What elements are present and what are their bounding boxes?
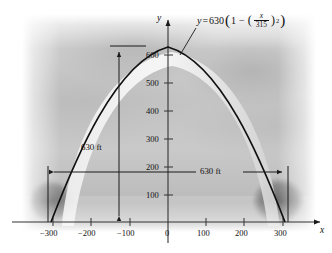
y-axis-label: y: [157, 14, 161, 24]
equation-fraction: x 315: [254, 12, 269, 29]
x-tick-label--200: −200: [78, 229, 96, 238]
y-tick-label-100: 100: [146, 191, 159, 200]
equation-equals: =: [202, 15, 208, 26]
y-tick-label-300: 300: [146, 135, 159, 144]
equation-label: y = 630 ( 1 − ( x 315 ) 2 ): [197, 12, 285, 29]
y-tick-label-200: 200: [146, 163, 159, 172]
equation-leader-line: [180, 28, 196, 55]
figure-arch-parabola: y = 630 ( 1 − ( x 315 ) 2 ) y x −300 −20…: [0, 0, 332, 253]
equation-open-paren: (: [225, 14, 230, 28]
plot-layer: [0, 0, 332, 253]
x-tick-label-300: 300: [274, 229, 287, 238]
x-tick-label-0: 0: [165, 229, 169, 238]
x-axis-label: x: [320, 226, 324, 236]
width-annotation-label: 630 ft: [200, 167, 221, 176]
equation-close-paren: ): [280, 14, 285, 28]
x-tick-label-100: 100: [197, 229, 210, 238]
equation-minus: −: [239, 15, 245, 26]
fraction-denominator: 315: [254, 20, 269, 29]
equation-inner-open-paren: (: [248, 15, 252, 26]
equation-coefficient: 630: [209, 15, 224, 26]
y-tick-label-500: 500: [146, 79, 159, 88]
fraction-numerator: x: [258, 12, 265, 20]
y-tick-label-600: 600: [146, 51, 159, 60]
equation-one: 1: [231, 15, 236, 26]
equation-lhs: y: [197, 15, 201, 26]
equation-inner-close-paren: ): [271, 15, 275, 26]
x-tick-label-200: 200: [235, 229, 248, 238]
y-tick-label-400: 400: [146, 107, 159, 116]
height-annotation-label: 630 ft: [81, 143, 102, 152]
x-tick-label--300: −300: [40, 229, 58, 238]
x-tick-label--100: −100: [117, 229, 135, 238]
equation-exponent: 2: [276, 17, 279, 24]
